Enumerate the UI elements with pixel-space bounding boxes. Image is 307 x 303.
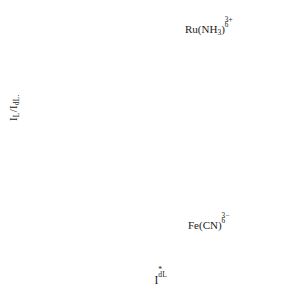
x-axis-title: I*dL: [130, 272, 190, 286]
series-label-bottom: Fe(CN)3−6: [188, 218, 228, 231]
series-label-top: Ru(NH3)3+6: [185, 22, 232, 35]
y-axis-title-text: IL/IdL.: [7, 94, 19, 121]
x-axis-title-text: I*dL: [155, 274, 166, 286]
plot-svg: [0, 0, 307, 303]
figure-container: IL/IdL. I*dL Ru(NH3)3+6 Fe(CN)3−6: [0, 0, 307, 303]
y-axis-title: IL/IdL.: [7, 99, 19, 121]
